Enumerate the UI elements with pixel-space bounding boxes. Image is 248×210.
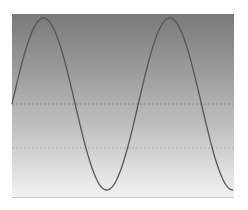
gridlines <box>12 104 233 148</box>
sine-chart <box>0 0 248 210</box>
